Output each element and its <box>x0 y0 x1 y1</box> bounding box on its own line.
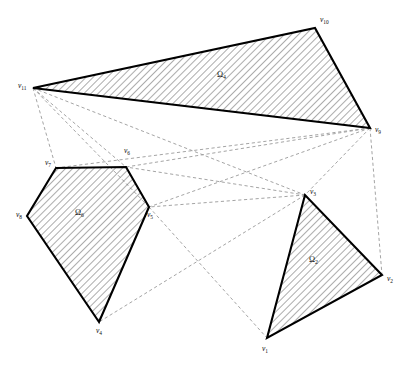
vertex-label-v7: v7 <box>45 158 51 168</box>
vertex-label-v1: v1 <box>262 344 268 354</box>
visibility-edge <box>126 128 370 167</box>
visibility-edge <box>149 207 267 338</box>
vertex-label-v2: v2 <box>387 274 393 284</box>
visibility-edge <box>126 167 305 195</box>
visibility-edge <box>33 88 126 167</box>
visibility-edge <box>33 88 56 168</box>
vertex-label-v4: v4 <box>96 326 102 336</box>
vertex-label-v9: v9 <box>375 125 381 135</box>
visibility-edge <box>370 128 382 275</box>
visibility-edge <box>56 128 370 168</box>
vertex-label-v8: v8 <box>16 210 22 220</box>
vertex-label-v5: v5 <box>147 210 153 220</box>
visibility-graph-diagram: Ω2Ω6Ω4 v1v2v3v4v5v6v7v8v9v10v11 <box>0 0 414 377</box>
visibility-edge <box>305 128 370 195</box>
obstacle-layer <box>27 28 382 338</box>
obstacle-polygon-omega4 <box>33 28 370 128</box>
obstacle-polygon-omega6 <box>27 167 149 322</box>
figure-canvas: Ω2Ω6Ω4 v1v2v3v4v5v6v7v8v9v10v11 <box>0 0 414 377</box>
obstacle-polygon-omega2 <box>267 195 382 338</box>
vertex-label-v6: v6 <box>124 146 130 156</box>
vertex-label-v3: v3 <box>310 187 316 197</box>
visibility-edge <box>149 195 305 207</box>
visibility-edge <box>149 128 370 207</box>
vertex-label-v10: v10 <box>320 15 329 25</box>
vertex-label-v11: v11 <box>18 81 27 91</box>
